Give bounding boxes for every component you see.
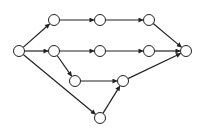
node-n9 (118, 76, 129, 87)
edge-group (23, 20, 181, 114)
edge-n0-n10 (23, 55, 95, 115)
node-n2 (95, 15, 106, 26)
edge-n10-n9 (103, 86, 120, 113)
node-n3 (144, 15, 155, 26)
node-n1 (49, 15, 60, 26)
edge-n4-n8 (57, 56, 71, 77)
edge-n0-n1 (23, 24, 49, 47)
node-n5 (95, 46, 106, 57)
node-n10 (95, 113, 106, 124)
node-n4 (49, 46, 60, 57)
directed-graph-diagram (0, 0, 203, 130)
edge-n9-n7 (128, 54, 181, 79)
node-n7 (181, 46, 192, 57)
node-n0 (14, 46, 25, 57)
node-n6 (144, 46, 155, 57)
node-n8 (70, 76, 81, 87)
edge-n3-n7 (153, 24, 181, 48)
